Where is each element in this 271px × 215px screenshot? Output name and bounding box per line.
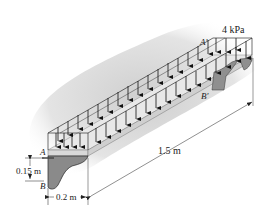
point-a-label: A (39, 147, 46, 157)
point-b-label: B (40, 181, 46, 191)
load-label: 4 kPa (222, 24, 245, 35)
width-label: 0.2 m (56, 192, 77, 202)
point-b-prime-label: B′ (201, 91, 209, 101)
depth-label: 0.15 m (16, 166, 41, 176)
length-label: 1.5 m (158, 145, 181, 156)
slab-front-edge (48, 150, 88, 156)
beam-diagram: 4 kPa A′ B′ A B 1.5 m 0.15 m 0.2 m (0, 0, 271, 215)
point-a-prime-label: A′ (199, 37, 208, 47)
